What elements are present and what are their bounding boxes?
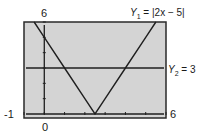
y2-rest: = 3 <box>179 64 196 75</box>
y2-equation-label: Y2 = 3 <box>168 64 196 79</box>
y-max-label: 6 <box>41 8 47 19</box>
y1-equation-label: Y1 = |2x − 5| <box>130 7 185 22</box>
origin-label: 0 <box>42 122 48 133</box>
plot-window <box>24 22 166 118</box>
x-min-label: -1 <box>4 109 14 120</box>
y1-name: Y <box>130 7 137 18</box>
y1-rest: = |2x − 5| <box>141 7 185 18</box>
y2-name: Y <box>168 64 175 75</box>
x-max-label: 6 <box>170 109 176 120</box>
